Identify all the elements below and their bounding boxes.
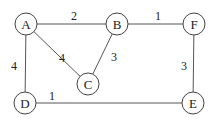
edge-weight-d-e: 1: [49, 89, 55, 103]
edge-f-e: [193, 24, 194, 103]
node-f: F: [183, 13, 205, 35]
node-label: F: [190, 17, 197, 32]
edge-weight-b-f: 1: [155, 9, 161, 23]
weighted-graph-diagram: 2143413 ABFCDE: [0, 0, 219, 123]
node-e: E: [182, 92, 204, 114]
edge-weight-a-b: 2: [71, 9, 77, 23]
node-c: C: [77, 73, 99, 95]
edge-weight-a-c: 4: [59, 51, 65, 65]
node-b: B: [106, 13, 128, 35]
graph-nodes: ABFCDE: [14, 13, 205, 114]
node-label: E: [189, 96, 197, 111]
node-label: D: [20, 96, 29, 111]
node-label: C: [84, 77, 93, 92]
edge-a-c: [26, 24, 88, 84]
node-label: A: [21, 17, 31, 32]
node-a: A: [15, 13, 37, 35]
edge-weight-f-e: 3: [181, 59, 187, 73]
edge-weight-b-c: 3: [111, 50, 117, 64]
node-label: B: [113, 17, 122, 32]
edge-weight-a-d: 4: [11, 59, 17, 73]
edge-a-d: [25, 24, 26, 103]
node-d: D: [14, 92, 36, 114]
